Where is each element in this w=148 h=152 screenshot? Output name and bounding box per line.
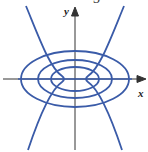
y-axis-arrow-icon — [72, 7, 79, 16]
x-axis-label: x — [138, 87, 144, 99]
hyperbola-left-branch — [26, 6, 64, 150]
x-axis-arrow-icon — [137, 76, 146, 83]
y-axis-label: y — [64, 5, 69, 17]
hyperbola-right-branch — [86, 6, 124, 150]
orthogonal-trajectories-diagram — [0, 0, 148, 152]
